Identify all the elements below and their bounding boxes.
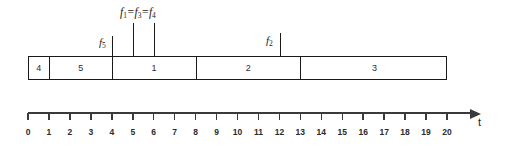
annotation-part-f1: f1 bbox=[120, 6, 127, 18]
axis-tick bbox=[237, 113, 239, 120]
segment-label: 3 bbox=[372, 64, 377, 73]
segment-label: 2 bbox=[246, 64, 251, 73]
axis-tick-label: 8 bbox=[193, 128, 198, 137]
axis-tick-label: 0 bbox=[26, 128, 31, 137]
axis-name-t: t bbox=[478, 117, 481, 128]
equals-sign-2: = bbox=[141, 6, 149, 18]
axis-tick bbox=[300, 113, 302, 120]
axis-tick-label: 17 bbox=[379, 128, 388, 137]
marker-line-f1 bbox=[133, 23, 135, 56]
axis-tick-label: 15 bbox=[338, 128, 347, 137]
axis-tick bbox=[362, 113, 364, 120]
axis-tick bbox=[321, 113, 323, 120]
axis-tick bbox=[279, 113, 281, 120]
axis-tick bbox=[132, 113, 134, 120]
axis-tick bbox=[446, 113, 448, 120]
axis-tick-label: 14 bbox=[317, 128, 326, 137]
axis-tick-label: 5 bbox=[130, 128, 135, 137]
axis-tick-label: 18 bbox=[400, 128, 409, 137]
axis-tick bbox=[404, 113, 406, 120]
axis-tick-label: 13 bbox=[296, 128, 305, 137]
marker-line-f2 bbox=[280, 33, 282, 56]
schedule-segment-job1[interactable]: 1 bbox=[113, 57, 197, 79]
axis-tick-label: 9 bbox=[214, 128, 219, 137]
segment-label: 5 bbox=[78, 64, 83, 73]
axis-tick bbox=[383, 113, 385, 120]
axis-tick-label: 2 bbox=[68, 128, 73, 137]
axis-tick-label: 6 bbox=[151, 128, 156, 137]
axis-tick bbox=[48, 113, 50, 120]
axis-tick-label: 11 bbox=[254, 128, 263, 137]
segment-label: 4 bbox=[36, 64, 41, 73]
axis-tick-label: 7 bbox=[172, 128, 177, 137]
schedule-segment-job5[interactable]: 5 bbox=[50, 57, 113, 79]
axis-tick bbox=[216, 113, 218, 120]
schedule-bar: 4 5 1 2 3 bbox=[28, 56, 447, 80]
schedule-segment-job2[interactable]: 2 bbox=[197, 57, 302, 79]
axis-tick-label: 20 bbox=[442, 128, 451, 137]
axis-tick bbox=[69, 113, 71, 120]
axis-tick-label: 3 bbox=[88, 128, 93, 137]
axis-tick-label: 4 bbox=[109, 128, 114, 137]
annotation-label-f2: f2 bbox=[266, 35, 273, 46]
axis-tick bbox=[174, 113, 176, 120]
axis-tick-label: 12 bbox=[275, 128, 284, 137]
segment-label: 1 bbox=[152, 64, 157, 73]
annotation-label-f5: f5 bbox=[99, 37, 106, 48]
schedule-timeline-figure: f1=f3=f4 f5 f2 4 5 1 2 3 012345678910111… bbox=[0, 0, 515, 149]
axis-tick-label: 1 bbox=[47, 128, 52, 137]
axis-tick bbox=[425, 113, 427, 120]
marker-line-f5 bbox=[112, 36, 114, 56]
schedule-segment-job4[interactable]: 4 bbox=[29, 57, 50, 79]
axis-tick bbox=[27, 113, 29, 120]
schedule-segment-job3[interactable]: 3 bbox=[301, 57, 448, 79]
axis-tick bbox=[195, 113, 197, 120]
annotation-label-f1-f3-f4: f1=f3=f4 bbox=[120, 7, 156, 19]
axis-tick bbox=[153, 113, 155, 120]
axis-tick bbox=[111, 113, 113, 120]
marker-line-f3 bbox=[154, 23, 156, 56]
axis-tick bbox=[342, 113, 344, 120]
axis-tick-label: 19 bbox=[421, 128, 430, 137]
axis-tick bbox=[258, 113, 260, 120]
axis-tick-label: 10 bbox=[233, 128, 242, 137]
axis-tick bbox=[90, 113, 92, 120]
annotation-part-f4: f4 bbox=[149, 6, 156, 18]
axis-tick-label: 16 bbox=[358, 128, 367, 137]
